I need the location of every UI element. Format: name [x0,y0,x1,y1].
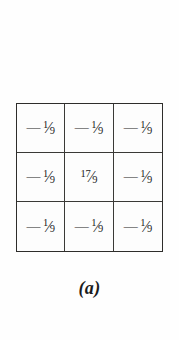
fraction: 1⁄9 [140,219,152,235]
fraction-denominator: 9 [50,126,55,137]
fraction: 1⁄9 [43,219,55,235]
minus-sign: — [27,219,41,233]
kernel-cell-r1c1: —1⁄9 [17,104,65,153]
fraction-denominator: 9 [98,224,103,235]
fraction: 1⁄9 [91,219,103,235]
fraction-denominator: 9 [50,175,55,186]
kernel-cell-center: 17⁄9 [65,153,113,202]
fraction: 1⁄9 [43,169,55,185]
kernel-cell-r3c2: —1⁄9 [65,202,113,251]
minus-sign: — [75,121,89,135]
fraction-denominator: 9 [147,175,152,186]
kernel-value-r3c2: —1⁄9 [75,219,103,235]
fraction: 17⁄9 [81,169,98,185]
kernel-value-r1c3: —1⁄9 [124,120,152,136]
fraction: 1⁄9 [91,120,103,136]
fraction-denominator: 9 [147,126,152,137]
kernel-cell-r3c3: —1⁄9 [114,202,162,251]
kernel-value-r1c2: —1⁄9 [75,120,103,136]
fraction: 1⁄9 [43,120,55,136]
fraction: 1⁄9 [140,169,152,185]
figure-caption: (a) [0,278,179,299]
minus-sign: — [124,121,138,135]
kernel-value-r3c1: —1⁄9 [27,219,55,235]
figure-container: —1⁄9 —1⁄9 —1⁄9 —1⁄9 17⁄9 —1⁄9 [0,0,179,340]
kernel-cell-r2c3: —1⁄9 [114,153,162,202]
kernel-value-r1c1: —1⁄9 [27,120,55,136]
minus-sign: — [124,219,138,233]
kernel-cell-r1c3: —1⁄9 [114,104,162,153]
minus-sign: — [27,170,41,184]
fraction-denominator: 9 [98,126,103,137]
minus-sign: — [75,219,89,233]
fraction-denominator: 9 [147,224,152,235]
kernel-value-center: 17⁄9 [81,169,98,185]
kernel-cell-r3c1: —1⁄9 [17,202,65,251]
kernel-value-r2c3: —1⁄9 [124,169,152,185]
kernel-cell-r1c2: —1⁄9 [65,104,113,153]
fraction: 1⁄9 [140,120,152,136]
kernel-value-r3c3: —1⁄9 [124,219,152,235]
minus-sign: — [27,121,41,135]
minus-sign: — [124,170,138,184]
fraction-numerator: 17 [81,169,91,180]
fraction-denominator: 9 [92,175,97,186]
kernel-cell-r2c1: —1⁄9 [17,153,65,202]
kernel-matrix: —1⁄9 —1⁄9 —1⁄9 —1⁄9 17⁄9 —1⁄9 [16,103,163,252]
fraction-denominator: 9 [50,224,55,235]
kernel-value-r2c1: —1⁄9 [27,169,55,185]
